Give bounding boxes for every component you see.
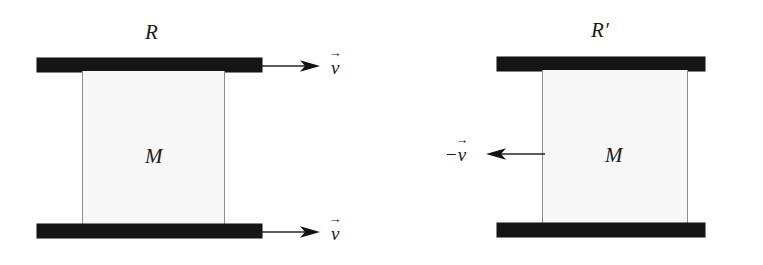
vector-arrow-accent-top-left: → [328,46,341,59]
top-plate-right [497,57,705,71]
vector-arrow-accent-bottom-left: → [328,212,341,225]
mass-label-left: M [145,144,163,169]
frame-label-R-prime: R′ [591,18,609,43]
velocity-label-middle-right: −→v [446,142,466,166]
bottom-plate-left [37,224,262,238]
vector-v-glyph-top-left: →v [331,55,339,79]
top-plate-left [37,58,262,72]
vector-symbol-bottom-left: v [331,223,339,244]
frame-label-prime-mark: ′ [604,18,609,42]
bottom-plate-right [497,223,705,237]
minus-sign-middle-right: − [446,144,457,165]
velocity-arrow-bottom-left [262,224,324,240]
panel-frame-R: R M →v →v [0,0,390,265]
vector-symbol-top-left: v [331,57,339,78]
panel-frame-R-prime: R′ M −→v [390,0,763,265]
vector-arrow-accent-middle-right: → [455,133,468,146]
velocity-label-bottom-left: →v [330,221,339,245]
vector-v-glyph-bottom-left: →v [331,221,339,245]
frame-label-R-prime-letter: R [591,18,604,42]
frame-label-R: R [145,20,158,45]
velocity-arrow-top-left [262,58,324,74]
vector-v-glyph-middle-right: →v [458,142,466,166]
physics-figure-reference-frames: R M →v →v R′ M [0,0,763,265]
velocity-arrow-middle-right [485,146,545,162]
vector-symbol-middle-right: v [458,144,466,165]
velocity-label-top-left: →v [330,55,339,79]
mass-label-right: M [605,143,623,168]
